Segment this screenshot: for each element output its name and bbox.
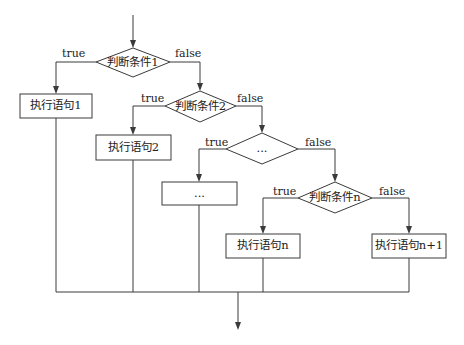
d3-false-connector [298, 149, 338, 182]
process-n-label: 执行语句n [226, 234, 300, 258]
dn-false-label: false [379, 186, 405, 197]
d2-false-label: false [237, 93, 263, 104]
decision-1-label: 判断条件1 [96, 48, 170, 77]
d1-true-connector [53, 62, 96, 94]
d2-true-connector [130, 106, 165, 135]
process-2-label: 执行语句2 [96, 135, 171, 160]
d3-true-label: true [205, 137, 228, 148]
d3-false-label: false [305, 137, 331, 148]
exit-arrow [235, 292, 241, 330]
process-1-label: 执行语句1 [20, 94, 92, 118]
d1-true-label: true [62, 48, 85, 59]
process-n1-label: 执行语句n+1 [372, 234, 446, 258]
d1-false-connector [170, 62, 203, 91]
decision-n-label: 判断条件n [298, 182, 372, 213]
d3-true-connector [196, 149, 226, 182]
d2-true-label: true [141, 93, 164, 104]
dn-true-connector [260, 198, 298, 234]
entry-arrow [130, 15, 136, 48]
d2-false-connector [236, 106, 265, 133]
decision-2-label: 判断条件2 [165, 91, 236, 122]
d1-false-label: false [175, 48, 201, 59]
dn-false-connector [372, 198, 412, 234]
dn-true-label: true [273, 186, 296, 197]
process-3-label: ... [162, 182, 237, 205]
decision-3-label: ... [226, 133, 298, 164]
